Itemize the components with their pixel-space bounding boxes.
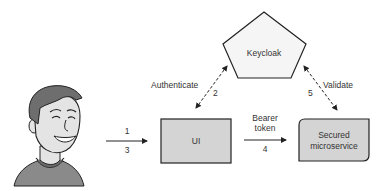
keycloak-node: [223, 12, 306, 78]
ui-label: UI: [192, 136, 201, 146]
microservice-node: [299, 119, 369, 161]
authenticate-arrow: [196, 66, 227, 108]
authenticate-label: Authenticate: [151, 80, 199, 90]
keycloak-label: Keycloak: [247, 48, 282, 58]
microservice-label-line1: Secured: [318, 130, 350, 140]
step-2-label: 2: [213, 88, 218, 98]
validate-label: Validate: [323, 80, 353, 90]
bearer-label-line2: token: [255, 123, 276, 133]
diagram-canvas: Keycloak UI Secured microservice 1 3 Aut…: [0, 0, 383, 191]
step-4-label: 4: [263, 144, 268, 154]
step-3-label: 3: [125, 145, 130, 155]
person-avatar-icon: [14, 86, 84, 186]
bearer-label-line1: Bearer: [252, 113, 278, 123]
step-1-label: 1: [125, 126, 130, 136]
microservice-label-line2: microservice: [310, 141, 358, 151]
step-5-label: 5: [308, 88, 313, 98]
